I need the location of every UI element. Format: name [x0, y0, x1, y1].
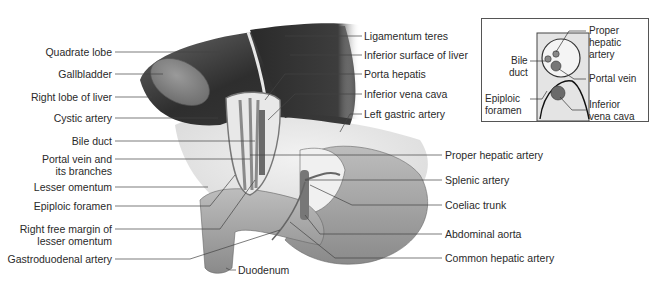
label-portal-vein-1: Portal vein and [0, 153, 112, 165]
label-splenic-artery: Splenic artery [445, 174, 509, 186]
inset-ivc [551, 86, 565, 100]
inset-label-bile-duct-2: duct [509, 67, 528, 79]
label-right-free-margin-2: lesser omentum [0, 235, 112, 247]
inset-label-ivc-2: vena cava [589, 111, 635, 123]
label-cystic-artery: Cystic artery [0, 112, 112, 124]
label-right-lobe-of-liver: Right lobe of liver [0, 91, 112, 103]
inset-label-ivc-1: Inferior [589, 99, 620, 111]
inset-label-proper-hepatic-1: Proper [589, 25, 619, 37]
label-common-hepatic-artery: Common hepatic artery [445, 252, 554, 264]
label-quadrate-lobe: Quadrate lobe [0, 46, 112, 58]
inset-bile-duct [545, 56, 551, 62]
label-gallbladder: Gallbladder [0, 68, 112, 80]
inset-label-epiploic-2: foramen [485, 105, 522, 117]
label-left-gastric-artery: Left gastric artery [364, 108, 445, 120]
label-epiploic-foramen: Epiploic foramen [0, 200, 112, 212]
label-porta-hepatis: Porta hepatis [364, 68, 426, 80]
label-inferior-surface-of-liver: Inferior surface of liver [364, 49, 468, 61]
label-right-free-margin-1: Right free margin of [0, 223, 112, 235]
label-lesser-omentum: Lesser omentum [0, 181, 112, 193]
inset-label-epiploic-1: Epiploic [485, 93, 520, 105]
inset-cross-section: Proper hepatic artery Bile duct Portal v… [481, 18, 649, 122]
inset-label-proper-hepatic-3: artery [589, 49, 615, 61]
inset-label-portal-vein: Portal vein [589, 73, 636, 85]
inset-label-proper-hepatic-2: hepatic [589, 37, 621, 49]
label-abdominal-aorta: Abdominal aorta [445, 228, 521, 240]
label-portal-vein-2: its branches [0, 165, 112, 177]
label-duodenum: Duodenum [238, 264, 289, 276]
label-bile-duct: Bile duct [0, 135, 112, 147]
label-proper-hepatic-artery: Proper hepatic artery [445, 149, 543, 161]
label-ligamentum-teres: Ligamentum teres [364, 30, 448, 42]
label-coeliac-trunk: Coeliac trunk [445, 199, 506, 211]
label-gastroduodenal-artery: Gastroduodenal artery [0, 253, 112, 265]
inset-label-bile-duct-1: Bile [511, 55, 528, 67]
label-inferior-vena-cava: Inferior vena cava [364, 88, 447, 100]
